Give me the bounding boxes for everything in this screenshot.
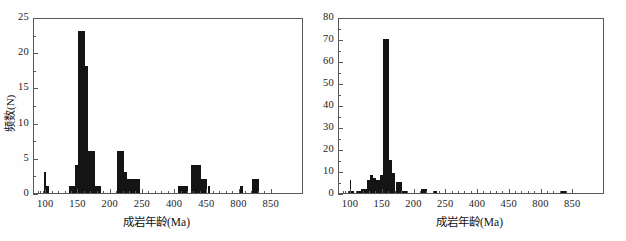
x-tick-minor — [58, 191, 59, 194]
y-tick-minor — [338, 183, 341, 184]
x-tick-minor — [116, 191, 117, 194]
x-tick-minor — [161, 191, 162, 194]
x-tick-minor — [90, 191, 91, 194]
x-tick-minor — [483, 191, 484, 194]
y-tick-major — [33, 18, 38, 19]
y-tick-major — [338, 18, 343, 19]
x-tick-major — [45, 189, 46, 194]
y-tick-label: 0 — [7, 187, 29, 198]
x-tick-minor — [245, 191, 246, 194]
x-tick-major — [239, 189, 240, 194]
x-tick-minor — [363, 191, 364, 194]
x-tick-minor — [515, 191, 516, 194]
y-tick-major — [338, 150, 343, 151]
x-tick-minor — [356, 191, 357, 194]
y-tick-label: 10 — [312, 165, 334, 176]
x-tick-minor — [458, 191, 459, 194]
y-tick-major — [338, 128, 343, 129]
y-tick-major — [338, 172, 343, 173]
x-tick-minor — [43, 191, 44, 194]
x-tick-major — [541, 189, 542, 194]
y-tick-label: 20 — [312, 143, 334, 154]
y-tick-major — [338, 84, 343, 85]
x-tick-minor — [439, 191, 440, 194]
x-tick-minor — [553, 191, 554, 194]
x-tick-minor — [388, 191, 389, 194]
x-tick-minor — [566, 191, 567, 194]
figure-container: 100150200250400450800850 0510152025 成岩年龄… — [0, 0, 626, 241]
x-axis-title-left: 成岩年龄(Ma) — [0, 213, 313, 229]
y-tick-major — [33, 88, 38, 89]
x-tick-minor — [84, 191, 85, 194]
y-tick-major — [338, 106, 343, 107]
y-tick-minor — [338, 73, 341, 74]
x-tick-minor — [213, 191, 214, 194]
y-tick-minor — [33, 106, 36, 107]
y-tick-label: 30 — [312, 121, 334, 132]
x-tick-minor — [369, 191, 370, 194]
x-tick-major — [572, 189, 573, 194]
x-tick-minor — [181, 191, 182, 194]
x-tick-minor — [420, 191, 421, 194]
bar-series-left — [34, 19, 302, 193]
y-tick-minor — [338, 51, 341, 52]
x-tick-minor — [148, 191, 149, 194]
x-tick-minor — [471, 191, 472, 194]
x-tick-minor — [375, 191, 376, 194]
x-tick-minor — [433, 191, 434, 194]
y-tick-minor — [33, 141, 36, 142]
y-tick-major — [338, 194, 343, 195]
y-tick-label: 5 — [7, 152, 29, 163]
x-tick-minor — [251, 191, 252, 194]
chart-panel-right: 100150200250400450800850 010203040506070… — [313, 0, 626, 241]
x-tick-minor — [464, 191, 465, 194]
x-tick-minor — [528, 191, 529, 194]
x-tick-major — [414, 189, 415, 194]
x-tick-minor — [490, 191, 491, 194]
x-axis-title-right: 成岩年龄(Ma) — [313, 213, 626, 229]
plot-area-right — [338, 18, 604, 194]
y-tick-minor — [338, 95, 341, 96]
x-tick-major — [174, 189, 175, 194]
x-tick-major — [350, 189, 351, 194]
x-tick-minor — [103, 191, 104, 194]
x-tick-minor — [452, 191, 453, 194]
y-tick-minor — [33, 71, 36, 72]
y-tick-label: 70 — [312, 33, 334, 44]
y-tick-major — [338, 40, 343, 41]
bar-series-right — [339, 19, 603, 193]
y-tick-major — [33, 124, 38, 125]
x-tick-minor — [264, 191, 265, 194]
x-tick-minor — [193, 191, 194, 194]
x-tick-major — [77, 189, 78, 194]
x-tick-minor — [40, 191, 41, 194]
y-tick-minor — [338, 117, 341, 118]
x-tick-label: 850 — [251, 198, 291, 209]
histogram-bar — [136, 179, 139, 193]
x-tick-minor — [345, 191, 346, 194]
y-tick-label: 25 — [7, 11, 29, 22]
x-tick-minor — [407, 191, 408, 194]
y-tick-label: 40 — [312, 99, 334, 110]
y-tick-major — [33, 53, 38, 54]
y-tick-label: 80 — [312, 11, 334, 22]
y-tick-major — [33, 194, 38, 195]
plot-area-left — [33, 18, 303, 194]
y-tick-minor — [33, 36, 36, 37]
x-tick-minor — [401, 191, 402, 194]
histogram-bar — [434, 191, 437, 193]
x-tick-minor — [534, 191, 535, 194]
y-tick-minor — [338, 29, 341, 30]
histogram-bar — [240, 186, 243, 193]
x-tick-minor — [219, 191, 220, 194]
y-tick-label: 60 — [312, 55, 334, 66]
y-tick-label: 50 — [312, 77, 334, 88]
x-tick-major — [110, 189, 111, 194]
x-tick-minor — [200, 191, 201, 194]
y-tick-label: 15 — [7, 81, 29, 92]
chart-panel-left: 100150200250400450800850 0510152025 成岩年龄… — [0, 0, 313, 241]
x-tick-minor — [65, 191, 66, 194]
x-tick-minor — [226, 191, 227, 194]
x-tick-major — [271, 189, 272, 194]
x-tick-minor — [38, 191, 39, 194]
